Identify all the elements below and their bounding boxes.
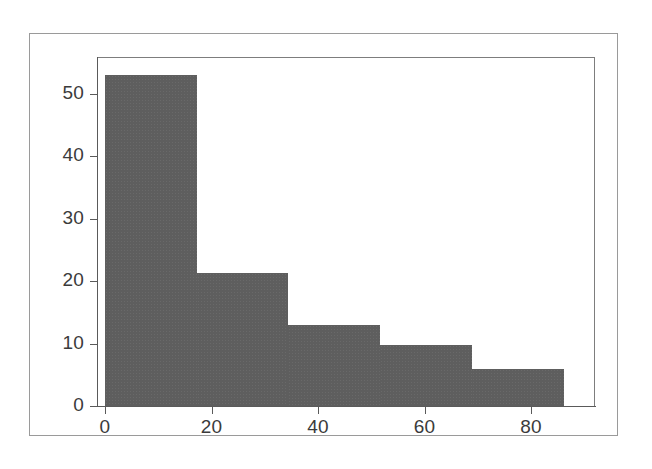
- x-axis-line: [97, 406, 596, 407]
- x-tick-label: 80: [506, 416, 556, 438]
- histogram-bar-4: [380, 345, 472, 406]
- y-tick-mark: [90, 281, 97, 282]
- figure-canvas: 01020304050 020406080: [0, 0, 652, 469]
- y-tick-label: 20: [44, 269, 84, 291]
- x-tick-mark: [105, 406, 106, 414]
- y-tick-mark: [90, 344, 97, 345]
- y-axis-line: [97, 57, 98, 407]
- y-tick-label: 10: [44, 332, 84, 354]
- histogram-bar-3: [288, 325, 380, 406]
- histogram-bar-1: [105, 75, 197, 406]
- histogram-bar-2: [197, 273, 289, 406]
- y-tick-label: 50: [44, 82, 84, 104]
- y-tick-label: 40: [44, 144, 84, 166]
- y-tick-label: 0: [44, 394, 84, 416]
- x-tick-mark: [212, 406, 213, 414]
- x-tick-label: 0: [80, 416, 130, 438]
- x-tick-mark: [318, 406, 319, 414]
- x-tick-mark: [425, 406, 426, 414]
- x-tick-label: 40: [293, 416, 343, 438]
- y-tick-mark: [90, 94, 97, 95]
- plot-area: [97, 57, 595, 406]
- histogram-bar-5: [472, 369, 564, 406]
- x-tick-label: 60: [400, 416, 450, 438]
- x-tick-mark: [531, 406, 532, 414]
- y-tick-mark: [90, 219, 97, 220]
- x-tick-label: 20: [187, 416, 237, 438]
- y-tick-label: 30: [44, 207, 84, 229]
- y-tick-mark: [90, 406, 97, 407]
- y-tick-mark: [90, 156, 97, 157]
